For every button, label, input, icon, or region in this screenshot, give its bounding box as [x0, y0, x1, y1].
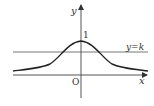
y-axis-label: y: [70, 5, 77, 16]
origin-label: O: [72, 77, 79, 87]
line-equation-label: y=k: [125, 42, 144, 52]
peak-value-label: 1: [83, 30, 89, 40]
function-graph-figure: y x O 1 y=k: [0, 0, 154, 106]
graph-canvas: y x O 1 y=k: [0, 0, 154, 106]
x-axis-label: x: [139, 75, 145, 86]
